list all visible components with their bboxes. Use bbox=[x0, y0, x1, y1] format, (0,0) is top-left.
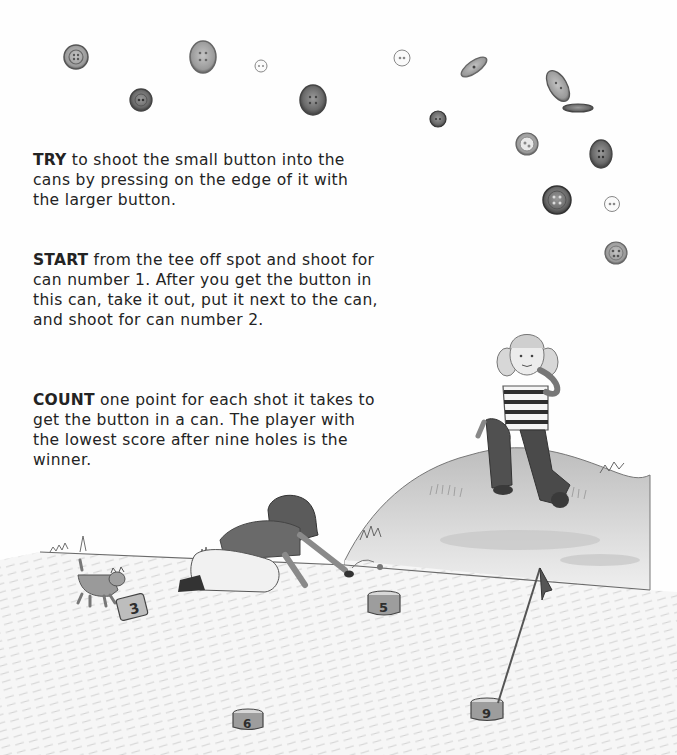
button-icon bbox=[605, 197, 620, 212]
button-icon bbox=[542, 67, 593, 112]
button-icon bbox=[190, 41, 216, 73]
button-icon bbox=[130, 89, 152, 111]
grassy-hill bbox=[345, 448, 650, 600]
girl-sitting-on-hill bbox=[478, 335, 570, 509]
girl-kneeling-shooting bbox=[178, 495, 383, 592]
instruction-text: to shoot the small button into the cans … bbox=[33, 151, 348, 209]
button-icon bbox=[300, 85, 326, 115]
activity-page: TRY to shoot the small button into the c… bbox=[0, 0, 677, 755]
instruction-try: TRY to shoot the small button into the c… bbox=[33, 150, 378, 210]
can-6: 6 bbox=[233, 709, 263, 731]
can-3: 3 bbox=[116, 593, 148, 621]
button-icon bbox=[516, 133, 538, 155]
can-9: 9 bbox=[471, 698, 503, 721]
instruction-start: START from the tee off spot and shoot fo… bbox=[33, 250, 378, 330]
instruction-lead: START bbox=[33, 251, 88, 269]
can-5: 5 bbox=[368, 591, 400, 615]
button-icon bbox=[605, 242, 627, 264]
button-icon bbox=[458, 53, 489, 80]
can-label: 6 bbox=[243, 717, 251, 731]
instruction-lead: TRY bbox=[33, 151, 67, 169]
can-label: 5 bbox=[379, 600, 388, 615]
can-label: 3 bbox=[128, 600, 141, 618]
flag-icon bbox=[498, 568, 552, 703]
kitten bbox=[78, 560, 125, 606]
button-icon bbox=[430, 111, 446, 127]
button-golf-illustration: 3 5 6 9 bbox=[0, 0, 677, 755]
button-icon bbox=[543, 186, 571, 214]
button-icon bbox=[255, 60, 267, 72]
button-icon bbox=[590, 140, 612, 168]
can-label: 9 bbox=[482, 706, 491, 721]
button-icon bbox=[64, 45, 88, 69]
instruction-lead: COUNT bbox=[33, 391, 95, 409]
button-icon bbox=[394, 50, 410, 66]
ground bbox=[0, 536, 677, 755]
instruction-count: COUNT one point for each shot it takes t… bbox=[33, 390, 378, 470]
